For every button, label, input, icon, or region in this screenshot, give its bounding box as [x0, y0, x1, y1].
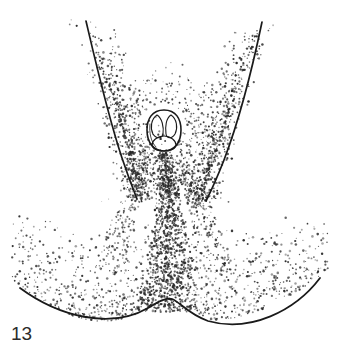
figure-container: 13 [0, 0, 341, 360]
figure-number-label: 13 [11, 323, 32, 344]
scientific-illustration: 13 [0, 0, 341, 360]
